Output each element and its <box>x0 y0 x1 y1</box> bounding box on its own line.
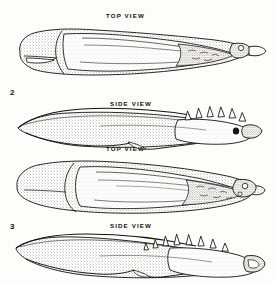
figure-number-3: 3 <box>10 222 14 231</box>
figure-3-top-view <box>17 161 265 213</box>
label-figure-2-top-view: TOP VIEW <box>106 12 145 19</box>
label-figure-3-top-view: TOP VIEW <box>106 145 145 152</box>
label-figure-2-side-view: SIDE VIEW <box>110 100 152 107</box>
plate-artwork <box>0 0 274 284</box>
figure-2-side-view <box>18 107 262 150</box>
figure-number-2: 2 <box>10 88 14 97</box>
figure-3-side-view <box>16 234 265 278</box>
label-figure-3-side-view: SIDE VIEW <box>110 222 152 229</box>
figure-2-top-view <box>20 29 266 75</box>
illustration-plate: TOP VIEW 2 SIDE VIEW TOP VIEW 3 SIDE VIE… <box>0 0 274 284</box>
